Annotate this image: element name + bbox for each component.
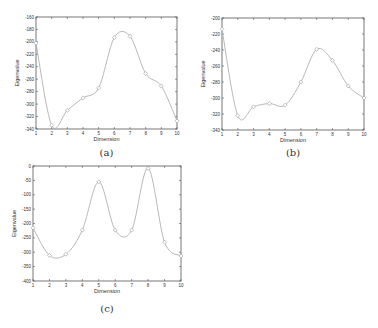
- y-tick-label: -240: [211, 48, 221, 53]
- x-tick-label: 4: [81, 283, 84, 288]
- x-tick-label: 8: [147, 283, 150, 288]
- eigenvalue-figure: 12345678910-160-180-200-220-240-260-280-…: [0, 0, 378, 328]
- y-axis-label: Eigenvalue: [11, 210, 17, 237]
- y-tick-label: -400: [22, 279, 32, 284]
- x-tick-label: 10: [174, 131, 180, 136]
- y-tick-label: -200: [22, 221, 32, 226]
- y-tick-label: -340: [211, 128, 221, 133]
- x-tick-label: 2: [50, 131, 53, 136]
- y-tick-label: -300: [22, 250, 32, 255]
- x-axis-label: Dimension: [94, 288, 120, 294]
- chart-a: 12345678910-160-180-200-220-240-260-280-…: [14, 15, 180, 159]
- y-tick-label: -240: [25, 64, 35, 69]
- y-tick-label: -220: [211, 32, 221, 37]
- x-tick-label: 4: [268, 132, 271, 137]
- chart-b: 12345678910-200-220-240-260-280-300-320-…: [200, 16, 367, 159]
- x-tick-label: 9: [347, 132, 350, 137]
- x-tick-label: 1: [221, 132, 224, 137]
- y-tick-label: -180: [25, 27, 35, 32]
- y-tick-label: -300: [25, 102, 35, 107]
- y-tick-label: -350: [22, 264, 32, 269]
- x-tick-label: 3: [252, 132, 255, 137]
- plot-frame: [222, 18, 364, 130]
- x-axis-label: Dimension: [280, 137, 306, 143]
- y-tick-label: 0: [28, 164, 31, 169]
- figure-caption: (a): [100, 147, 114, 158]
- plot-frame: [36, 17, 177, 129]
- y-axis-label: Eigenvalue: [200, 60, 206, 87]
- y-tick-label: -200: [211, 16, 221, 21]
- x-tick-label: 2: [237, 132, 240, 137]
- y-tick-label: -300: [211, 96, 221, 101]
- y-tick-label: -320: [211, 112, 221, 117]
- y-tick-label: -160: [25, 15, 35, 20]
- x-tick-label: 7: [130, 283, 133, 288]
- y-tick-label: -340: [25, 127, 35, 132]
- y-tick-label: -260: [211, 64, 221, 69]
- x-tick-label: 7: [315, 132, 318, 137]
- figure-caption: (b): [286, 147, 300, 158]
- y-tick-label: -50: [24, 178, 31, 183]
- x-tick-label: 10: [178, 283, 184, 288]
- y-tick-label: -250: [22, 235, 32, 240]
- x-tick-label: 8: [331, 132, 334, 137]
- y-tick-label: -320: [25, 114, 35, 119]
- y-tick-label: -260: [25, 77, 35, 82]
- x-tick-label: 3: [66, 131, 69, 136]
- y-tick-label: -280: [25, 89, 35, 94]
- x-tick-label: 7: [129, 131, 132, 136]
- x-tick-label: 8: [144, 131, 147, 136]
- x-axis-label: Dimension: [94, 136, 120, 142]
- y-axis-label: Eigenvalue: [14, 59, 20, 86]
- x-tick-label: 3: [65, 283, 68, 288]
- y-tick-label: -220: [25, 52, 35, 57]
- chart-c: 123456789100-50-100-150-200-250-300-350-…: [11, 164, 184, 315]
- x-tick-label: 10: [361, 132, 367, 137]
- y-tick-label: -200: [25, 39, 35, 44]
- y-tick-label: -100: [22, 192, 32, 197]
- x-tick-label: 4: [82, 131, 85, 136]
- x-tick-label: 9: [160, 131, 163, 136]
- x-tick-label: 1: [32, 283, 35, 288]
- plot-frame: [33, 166, 181, 281]
- x-tick-label: 9: [163, 283, 166, 288]
- y-tick-label: -150: [22, 207, 32, 212]
- y-tick-label: -280: [211, 80, 221, 85]
- figure-caption: (c): [100, 303, 114, 314]
- x-tick-label: 1: [35, 131, 38, 136]
- x-tick-label: 2: [48, 283, 51, 288]
